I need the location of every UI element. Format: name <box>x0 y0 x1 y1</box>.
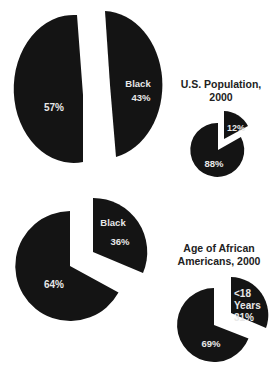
pie-1-slice-other <box>14 15 83 163</box>
chart-canvas: 57% Black 43% U.S. Population, 2000 12% … <box>0 0 279 375</box>
pie-3-main-label: 64% <box>44 279 64 290</box>
pie-4: Age of African Americans, 2000 <18 Years… <box>177 242 268 362</box>
pie-1: 57% Black 43% <box>14 11 163 163</box>
pie-3: Black 36% 64% <box>15 198 147 321</box>
pie-4-wedge-label-2: Years <box>234 300 261 311</box>
pie-2-main-label: 88% <box>204 158 224 169</box>
pie-2-title-line-2: 2000 <box>209 91 233 103</box>
pie-1-wedge-label-2: 43% <box>131 92 151 103</box>
pie-4-wedge-label-1: <18 <box>234 288 251 299</box>
pie-2: U.S. Population, 2000 12% 88% <box>181 78 262 177</box>
pie-4-title-line-1: Age of African <box>183 242 254 254</box>
pie-3-wedge-label-2: 36% <box>110 236 130 247</box>
pie-4-main-label: 69% <box>201 338 221 349</box>
pie-4-wedge-label-3: 31% <box>234 312 254 323</box>
pie-4-title-line-2: Americans, 2000 <box>178 255 261 267</box>
pie-2-wedge-label: 12% <box>227 123 245 133</box>
pie-1-main-label: 57% <box>44 102 64 113</box>
pie-3-wedge-label-1: Black <box>100 217 126 228</box>
pie-1-wedge-label-1: Black <box>125 78 151 89</box>
pie-2-title-line-1: U.S. Population, <box>181 78 262 90</box>
